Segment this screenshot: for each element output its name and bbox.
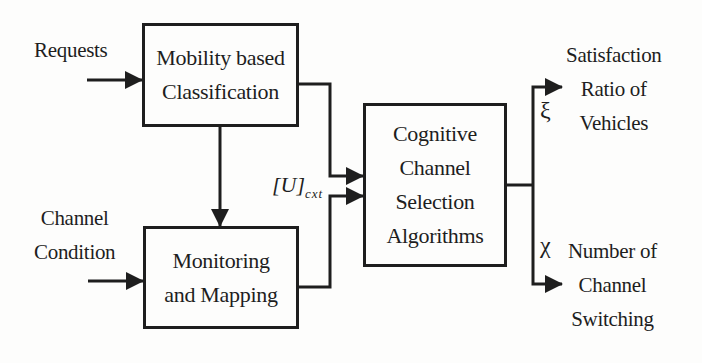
channel-condition-label: Channel Condition bbox=[34, 201, 115, 269]
monitoring-to-selection-arrow bbox=[298, 196, 363, 287]
context-matrix-label: [U]cxt bbox=[272, 172, 323, 202]
channel-switching-label: Number of Channel Switching bbox=[568, 234, 657, 336]
satisfaction-ratio-label: Satisfaction Ratio of Vehicles bbox=[566, 38, 662, 140]
requests-label: Requests bbox=[34, 33, 107, 67]
mobility-classification-block: Mobility based Classification bbox=[142, 23, 299, 127]
cognitive-channel-selection-block: Cognitive Channel Selection Algorithms bbox=[363, 103, 507, 267]
xi-symbol: ξ bbox=[540, 97, 551, 124]
chi-symbol: χ bbox=[540, 232, 551, 259]
classification-to-selection-arrow bbox=[298, 84, 363, 176]
monitoring-mapping-block: Monitoring and Mapping bbox=[143, 226, 299, 329]
